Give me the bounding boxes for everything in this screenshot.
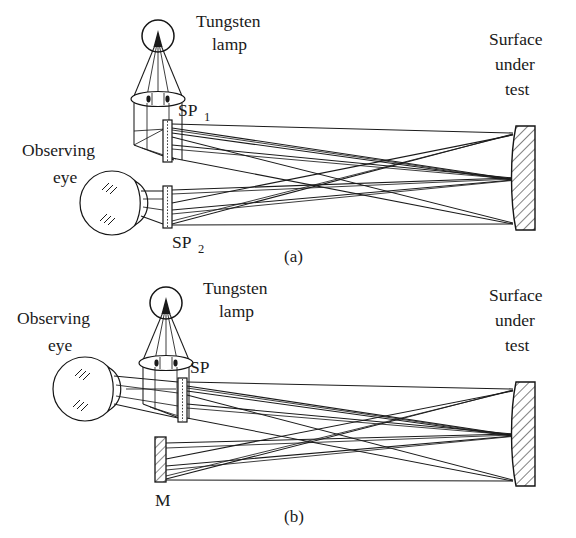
svg-text:SP: SP bbox=[178, 100, 198, 120]
observing-eye-a bbox=[80, 171, 148, 235]
flat-mirror-m bbox=[155, 437, 166, 482]
label-tungsten-a: Tungsten bbox=[196, 11, 261, 31]
label-surface-b: Surface bbox=[489, 285, 543, 305]
lamp-illumination-cone-a bbox=[134, 38, 182, 96]
label-mirror-m: M bbox=[155, 490, 171, 510]
scatterplate-2 bbox=[163, 186, 172, 228]
label-sp1: SP 1 bbox=[178, 100, 210, 124]
scatterplate-1 bbox=[163, 120, 172, 162]
svg-text:1: 1 bbox=[204, 110, 210, 124]
lens-icon bbox=[131, 92, 185, 107]
label-sp2: SP 2 bbox=[172, 232, 204, 256]
condenser-lens-b bbox=[139, 356, 193, 371]
optical-diagram: Tungsten lamp Observing eye SP 1 SP 2 Su… bbox=[0, 0, 576, 538]
label-observing-b: Observing bbox=[17, 308, 90, 328]
flat-mirror-body bbox=[155, 437, 166, 482]
label-lamp-a: lamp bbox=[212, 34, 247, 54]
condenser-lens-a bbox=[131, 92, 185, 107]
observing-eye-b bbox=[53, 357, 121, 421]
surface-under-test-a bbox=[512, 126, 536, 230]
figure-root: Tungsten lamp Observing eye SP 1 SP 2 Su… bbox=[0, 0, 576, 538]
caption-a: (a) bbox=[284, 247, 303, 266]
label-lamp-b: lamp bbox=[219, 301, 254, 321]
label-sp-b: SP bbox=[190, 357, 210, 377]
surface-under-test-b bbox=[512, 382, 536, 486]
surface-under-test-body-a bbox=[512, 126, 536, 230]
scatterplate-b bbox=[178, 378, 187, 422]
svg-text:SP: SP bbox=[172, 232, 192, 252]
lens-to-sp1-beam-a bbox=[134, 103, 182, 160]
label-eye-a: eye bbox=[53, 167, 78, 187]
label-test-b: test bbox=[505, 335, 529, 355]
label-test-a: test bbox=[505, 79, 529, 99]
ray-bundle-sp2-a bbox=[172, 134, 513, 225]
surface-under-test-body-b bbox=[512, 382, 536, 486]
lamp-illumination-cone-b bbox=[143, 305, 189, 360]
panel-b: Tungsten lamp Observing eye SP M Surface… bbox=[17, 278, 543, 526]
panel-a: Tungsten lamp Observing eye SP 1 SP 2 Su… bbox=[22, 11, 543, 266]
lens-icon bbox=[139, 356, 193, 371]
caption-b: (b) bbox=[284, 507, 304, 526]
eye-to-sp-beam-b bbox=[114, 376, 178, 418]
label-surface-a: Surface bbox=[489, 29, 543, 49]
label-eye-b: eye bbox=[48, 335, 73, 355]
svg-text:2: 2 bbox=[198, 242, 204, 256]
label-under-b: under bbox=[495, 310, 535, 330]
label-observing-a: Observing bbox=[22, 140, 95, 160]
label-under-a: under bbox=[495, 54, 535, 74]
label-tungsten-b: Tungsten bbox=[203, 278, 268, 298]
ray-bundle-mirror-b bbox=[166, 390, 513, 481]
